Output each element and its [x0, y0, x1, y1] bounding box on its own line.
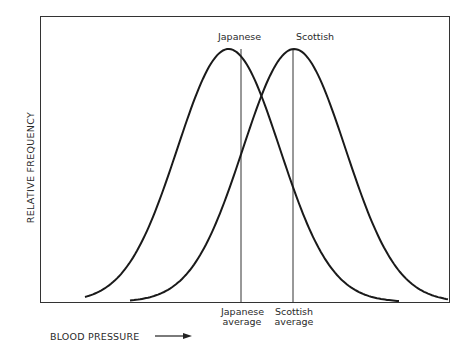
scottish-peak-label: Scottish — [296, 32, 334, 42]
japanese-average-label-line2: average — [221, 317, 263, 327]
japanese-average-label: Japanese average — [221, 307, 263, 327]
japanese-curve — [85, 49, 399, 301]
x-axis-arrow-head — [183, 333, 192, 339]
plot-frame — [41, 17, 450, 303]
scottish-average-label-line2: average — [273, 317, 315, 327]
japanese-peak-label: Japanese — [218, 32, 261, 42]
y-axis-label: RELATIVE FREQUENCY — [25, 108, 36, 228]
x-axis-label: BLOOD PRESSURE — [50, 331, 140, 342]
scottish-average-label: Scottish average — [273, 307, 315, 327]
